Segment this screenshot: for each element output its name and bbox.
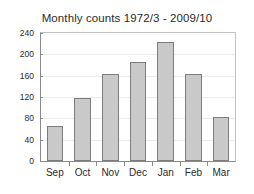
x-axis-tick-label-nov: Nov bbox=[101, 167, 119, 178]
x-axis-tick-label-dec: Dec bbox=[129, 167, 147, 178]
bar-series bbox=[41, 33, 235, 161]
bar-slot bbox=[180, 33, 208, 161]
bar-chart-figure: Monthly counts 1972/3 - 2009/10 04080120… bbox=[0, 0, 254, 194]
bar-sep[interactable] bbox=[47, 126, 64, 161]
x-axis-tick-mark bbox=[96, 162, 97, 166]
x-axis-tick-label-feb: Feb bbox=[185, 167, 202, 178]
bar-feb[interactable] bbox=[185, 74, 202, 161]
bar-slot bbox=[69, 33, 97, 161]
x-axis-tick-label-jan: Jan bbox=[158, 167, 174, 178]
x-axis-tick-mark bbox=[69, 162, 70, 166]
x-axis-tick-mark bbox=[180, 162, 181, 166]
x-axis-tick-label-oct: Oct bbox=[75, 167, 91, 178]
y-axis-tick-label: 40 bbox=[0, 135, 34, 145]
y-axis-tick-label: 80 bbox=[0, 113, 34, 123]
x-axis-tick-label-sep: Sep bbox=[46, 167, 64, 178]
x-axis-tick-mark bbox=[207, 162, 208, 166]
y-axis-tick-label: 120 bbox=[0, 92, 34, 102]
bar-slot bbox=[41, 33, 69, 161]
x-axis-tick-mark bbox=[152, 162, 153, 166]
bar-slot bbox=[152, 33, 180, 161]
chart-title: Monthly counts 1972/3 - 2009/10 bbox=[0, 12, 254, 24]
y-axis-tick-label: 160 bbox=[0, 71, 34, 81]
bar-nov[interactable] bbox=[102, 74, 119, 161]
x-axis-tick-label-mar: Mar bbox=[213, 167, 230, 178]
bar-jan[interactable] bbox=[157, 42, 174, 161]
bar-slot bbox=[96, 33, 124, 161]
bar-slot bbox=[124, 33, 152, 161]
y-axis-tick-label: 240 bbox=[0, 28, 34, 38]
bar-dec[interactable] bbox=[130, 62, 147, 161]
y-axis-tick-label: 200 bbox=[0, 49, 34, 59]
bar-slot bbox=[207, 33, 235, 161]
x-axis-tick-mark bbox=[124, 162, 125, 166]
y-axis-tick-label: 0 bbox=[0, 156, 34, 166]
bar-mar[interactable] bbox=[213, 117, 230, 161]
bar-oct[interactable] bbox=[74, 98, 91, 161]
y-axis-tick-mark bbox=[40, 161, 43, 162]
